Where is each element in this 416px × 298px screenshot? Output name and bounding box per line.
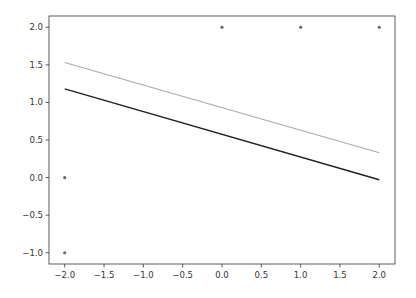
y-tick-label: 1.5 [29, 60, 43, 70]
x-tick-label: 1.0 [294, 270, 308, 280]
y-tick-label: 0.0 [29, 173, 43, 183]
figure-background [0, 0, 416, 298]
x-tick-label: −1.5 [94, 270, 115, 280]
data-point [299, 26, 302, 29]
data-point [63, 176, 66, 179]
x-tick-label: 1.5 [333, 270, 347, 280]
x-tick-label: −0.5 [172, 270, 193, 280]
x-tick-label: 2.0 [373, 270, 387, 280]
data-point [378, 26, 381, 29]
y-tick-label: −1.0 [22, 248, 43, 258]
y-tick-label: −0.5 [22, 210, 43, 220]
data-point [63, 251, 66, 254]
x-tick-label: 0.5 [255, 270, 269, 280]
y-tick-label: 1.0 [29, 97, 43, 107]
y-tick-label: 0.5 [29, 135, 43, 145]
y-tick-label: 2.0 [29, 22, 43, 32]
chart-figure: −2.0−1.5−1.0−0.50.00.51.01.52.0 2.01.51.… [0, 0, 416, 298]
x-tick-label: 0.0 [215, 270, 229, 280]
x-tick-label: −1.0 [133, 270, 154, 280]
x-tick-label: −2.0 [54, 270, 75, 280]
data-point [220, 26, 223, 29]
